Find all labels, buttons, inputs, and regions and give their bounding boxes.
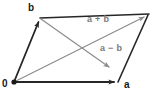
diagonal-label-difference: a − b <box>100 44 122 53</box>
vector-b-line <box>14 22 39 82</box>
diagonals <box>14 17 144 82</box>
origin-dot <box>11 79 16 84</box>
vertex-label-a: a <box>124 80 130 90</box>
diagonal-difference-line <box>41 19 109 67</box>
edge-a-to-sum-line <box>118 15 148 82</box>
parallelogram-edges <box>40 14 149 82</box>
diagonal-label-sum: a + b <box>87 15 109 24</box>
vector-diagram-figure: b 0 a a + b a − b <box>0 0 159 95</box>
vertex-label-origin: 0 <box>2 79 8 89</box>
vertex-label-b: b <box>28 3 34 13</box>
vector-diagram-canvas <box>0 0 159 95</box>
diagonal-sum-line <box>14 17 144 82</box>
primary-vectors <box>14 22 114 82</box>
